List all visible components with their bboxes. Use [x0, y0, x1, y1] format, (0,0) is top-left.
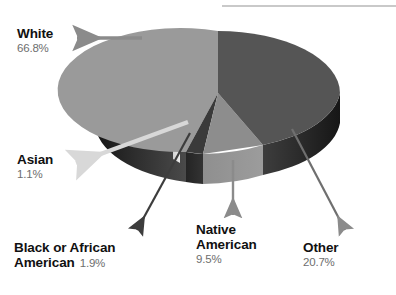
chart-canvas: White 66.8% Asian 1.1% Black or African …	[0, 0, 396, 295]
slice-top-white	[58, 28, 218, 152]
label-pct-asian: 1.1%	[17, 167, 53, 181]
slice-top-other-upper	[218, 31, 340, 93]
callout-label-black-or-african-american: Black or African American1.9%	[14, 240, 115, 271]
label-pct-native: 9.5%	[196, 252, 257, 266]
callout-label-other: Other 20.7%	[303, 240, 339, 269]
label-name-black-line2-text: American	[14, 255, 75, 270]
label-name-other: Other	[303, 240, 339, 255]
label-pct-other: 20.7%	[303, 255, 339, 269]
slice-wall-black	[186, 152, 203, 184]
callout-label-native-american: Native American 9.5%	[196, 222, 257, 266]
label-pct-white: 66.8%	[17, 41, 53, 55]
label-pct-black: 1.9%	[75, 257, 105, 269]
label-name-native-line1: Native	[196, 222, 257, 237]
callout-label-asian: Asian 1.1%	[17, 152, 53, 181]
label-name-asian: Asian	[17, 152, 53, 167]
label-name-white: White	[17, 26, 53, 41]
label-name-black-line2: American1.9%	[14, 255, 115, 271]
callout-label-white: White 66.8%	[17, 26, 53, 55]
label-name-native-line2: American	[196, 237, 257, 252]
label-name-black-line1: Black or African	[14, 240, 115, 255]
